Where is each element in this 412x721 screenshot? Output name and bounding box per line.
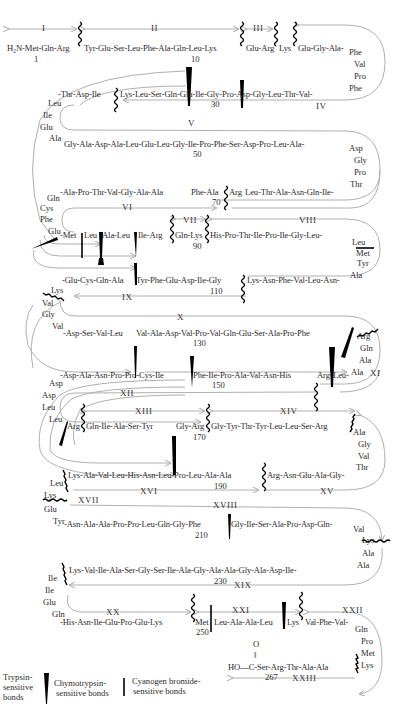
residue-number: 50 — [193, 149, 202, 159]
sequence-row-7b: Val-Ala-Asp-Val-Pro-Val-Gln-Glu-Ser-Ala-… — [136, 328, 310, 338]
residue-number: 150 — [212, 380, 225, 390]
legend-trypsin-line2: sensitive — [3, 682, 33, 692]
turn-residue: Leu — [42, 402, 55, 412]
sequence-row-8b: Phe-Ile-Pro-Ala-Val-Asn-His — [193, 370, 291, 380]
sequence-row-9c: Gly-Arg — [176, 421, 204, 431]
sequence-row-8d: Leu- — [333, 370, 349, 380]
sequence-row-13c: Leu-Ala-Ala-Leu — [214, 617, 273, 627]
residue-number: 190 — [214, 481, 227, 491]
turn-residue: Asp — [349, 143, 363, 153]
legend-chymotrypsin-line2: sensitive bonds — [56, 688, 109, 698]
peptide-fragment-lines — [8, 25, 385, 694]
turn-residue: Ala — [350, 270, 362, 280]
sequence-row-1-seg4: Lys — [279, 43, 291, 53]
residue-number: 267 — [265, 672, 278, 682]
turn-residue: Ala — [49, 133, 61, 143]
fragment-label: XVI — [140, 486, 158, 496]
residue-number: 130 — [193, 338, 206, 348]
turn-residue: Gly — [358, 439, 371, 449]
turn-residue: Ile — [48, 573, 57, 583]
sequence-row-4a: -Ala-Pro-Thr-Val-Gly-Ala-Ala — [60, 187, 163, 197]
sequence-row-10b: Arg-Asn-Glu-Ala-Gly- — [267, 470, 345, 480]
turn-residue: Ile — [45, 585, 54, 595]
turn-residue: Ala — [353, 427, 365, 437]
sequence-row-11a: -Asn-Ala-Ala-Pro-Pro-Leu-Gln-Gly-Phe — [64, 519, 201, 529]
fragment-label: VII — [183, 215, 197, 225]
legend-cnbr-line1: Cyanogen bromide- — [132, 676, 201, 686]
turn-residue: Phe — [40, 214, 53, 224]
sequence-row-7a: -Asp-Ser-Val-Leu — [63, 328, 123, 338]
fragment-label: VI — [122, 202, 133, 212]
turn-residue: Pro — [361, 636, 373, 646]
turn-residue: Lys — [362, 535, 374, 545]
sequence-row-4d: Leu-Thr-Ala-Asn-Gln-Ile- — [245, 187, 334, 197]
turn-residue: Thr — [350, 179, 362, 189]
residue-number: 1 — [34, 54, 38, 64]
fragment-label: XXI — [232, 605, 250, 615]
sequence-row-5c: Ala-Leu — [102, 230, 130, 240]
fragment-label: XV — [320, 486, 334, 496]
sequence-row-14: HO—C-Ser-Arg-Thr-Ala-Ala — [228, 662, 328, 672]
sequence-row-1-seg3: Glu-Arg — [246, 43, 274, 53]
sequence-row-13b: Met — [195, 617, 209, 627]
fragment-label: VIII — [299, 215, 317, 225]
sequence-row-13a: -His-Asn-Ile-Glu-Pro-Glu-Lys — [60, 617, 162, 627]
residue-number: 170 — [193, 432, 206, 442]
fragment-label: XII — [120, 388, 134, 398]
turn-residue: Val — [358, 451, 369, 461]
residue-number: 90 — [193, 241, 202, 251]
turn-residue: Gln — [360, 343, 373, 353]
sequence-row-2a: -Thr-Asp-Ile — [58, 89, 101, 99]
fragment-label: XXIII — [292, 673, 317, 683]
sequence-row-1-seg2: Tyr-Glu-Ser-Leu-Phe-Ala-Gln-Leu-Lys — [84, 43, 217, 53]
fragment-label: XXII — [342, 605, 363, 615]
sequence-row-5b: Leu — [84, 230, 97, 240]
fragment-label: XIII — [135, 406, 153, 416]
fragment-label: XIX — [234, 580, 252, 590]
turn-residue-met: Met — [356, 248, 370, 258]
turn-residue: Val — [52, 321, 63, 331]
turn-residue: Gln — [355, 624, 368, 634]
fragment-label: IV — [316, 101, 327, 111]
residue-number: 110 — [210, 286, 223, 296]
residue-number: 30 — [211, 99, 220, 109]
sequence-row-9a: Arg — [67, 421, 80, 431]
legend-chymotrypsin-line1: Chymotrypsin- — [54, 678, 106, 688]
turn-residue: Val — [354, 59, 365, 69]
turn-residue: Lys — [51, 285, 63, 295]
turn-residue: Arg — [357, 331, 370, 341]
turn-residue: Tyr — [357, 258, 369, 268]
turn-residue: Met — [361, 648, 375, 658]
fragment-label: XI — [370, 368, 381, 378]
fragment-label: XVIII — [213, 500, 238, 510]
residue-number: 250 — [196, 627, 209, 637]
turn-residue: Glu — [43, 597, 56, 607]
turn-residue: Val — [353, 524, 364, 534]
sequence-row-13d: Lys — [287, 617, 299, 627]
sequence-row-10a: Lys-Ala-Val-Leu-His-Asn-Leu-Pro-Leu-Ala-… — [68, 470, 231, 480]
sequence-row-6c: Lys-Asn-Phe-Val-Leu-Asn- — [247, 275, 340, 285]
turn-residue: Leu — [49, 414, 62, 424]
double-bond: ‖ — [254, 650, 256, 660]
turn-residue: Lys — [361, 660, 373, 670]
fragment-label: II — [151, 23, 158, 33]
residue-number: 230 — [214, 576, 227, 586]
turn-residue: Glu — [48, 226, 61, 236]
residue-number: 70 — [212, 197, 221, 207]
sequence-row-4c: Arg — [229, 187, 242, 197]
sequence-row-8a: -Asp-Ala-Asn-Pro-Pro-Cys-Ile — [60, 370, 164, 380]
turn-residue: Lys — [44, 490, 56, 500]
fragment-label: XIV — [280, 406, 298, 416]
turn-residue: Gly — [354, 155, 367, 165]
turn-residue: Ala — [362, 548, 374, 558]
turn-residue: Glu — [40, 122, 53, 132]
sequence-row-12: Lys-Val-Ile-Ala-Ser-Gly-Ser-Ile-Ala-Gly-… — [69, 565, 297, 575]
fragment-label: X — [177, 312, 184, 322]
turn-residue: Cys — [40, 203, 53, 213]
sequence-row-3: Gly-Ala-Asp-Ala-Leu-Glu-Leu-Gly-Ile-Pro-… — [64, 139, 304, 149]
turn-residue: Leu — [48, 98, 61, 108]
turn-residue: Glu — [44, 504, 57, 514]
sequence-row-11b: Gly-Ile-Ser-Ala-Pro-Asp-Gln- — [231, 519, 333, 529]
sequence-row-2b: Lys-Leu-Ser-Gln-Glu-Ile-Gly-Pro-Asp-Gly-… — [120, 89, 313, 99]
legend-trypsin-line3: bonds — [3, 692, 24, 702]
